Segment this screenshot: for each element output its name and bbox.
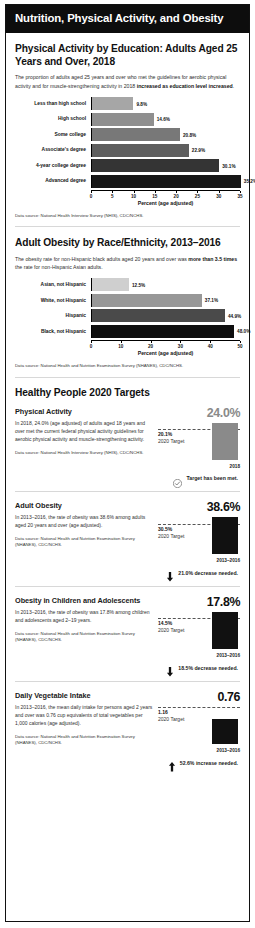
bar-fill	[92, 159, 219, 172]
data-source-note: Data source: National Health and Nutriti…	[15, 631, 154, 644]
target-goal-value: 20.1%	[158, 431, 172, 437]
bar-value-label: 48.0%	[234, 329, 250, 334]
bar-row: Black, not Hispanic48.0%	[15, 325, 240, 338]
target-name: Physical Activity	[15, 407, 154, 416]
bar-category-label: Associate's degree	[15, 147, 91, 152]
description-text: The obesity rate for non-Hispanic black …	[15, 256, 188, 262]
bar-value-label: 14.6%	[154, 117, 170, 122]
bar-fill	[92, 278, 129, 291]
bar-value-label: 20.8%	[180, 132, 196, 137]
section-title: Physical Activity by Education: Adults A…	[15, 42, 240, 68]
axis-tick-label: 30	[216, 194, 221, 199]
target-status-text: 21.0% decrease needed.	[178, 570, 238, 576]
axis-tick-label: 20	[148, 344, 153, 349]
bar-track: 37.1%	[91, 294, 240, 307]
bar-track: 44.9%	[91, 309, 240, 322]
bar-chart-race-ethnicity: Asian, not Hispanic12.5%White, not Hispa…	[15, 278, 240, 356]
target-description: In 2013–2016, the rate of obesity was 17…	[15, 608, 154, 624]
target-info: Adult ObesityIn 2013–2016, the rate of o…	[15, 501, 154, 549]
arrow-down-icon	[166, 568, 174, 578]
bar-category-label: Hispanic	[15, 313, 91, 318]
section-title: Healthy People 2020 Targets	[15, 387, 240, 398]
bar-track: 9.8%	[91, 97, 240, 110]
axis-tick-label: 30	[178, 344, 183, 349]
x-axis: 01020304050	[91, 340, 240, 351]
target-card: Obesity in Children and AdolescentsIn 20…	[15, 596, 240, 673]
bar-track: 48.0%	[91, 325, 240, 338]
target-goal-caption: 2020 Target	[158, 438, 184, 444]
data-source-note: Data source: National Health Interview S…	[15, 213, 240, 219]
target-value-bar	[212, 423, 238, 460]
target-period-label: 2013–2016	[217, 653, 240, 658]
section-description: The obesity rate for non-Hispanic black …	[15, 255, 240, 272]
data-source-note: Data source: National Health and Nutriti…	[15, 734, 154, 747]
section-healthy-people-2020: Healthy People 2020 Targets Physical Act…	[6, 378, 249, 775]
data-source-note: Data source: National Health and Nutriti…	[15, 363, 240, 369]
target-value-bar	[212, 612, 238, 649]
page-title: Nutrition, Physical Activity, and Obesit…	[15, 12, 240, 25]
target-card: Physical ActivityIn 2018, 24.0% (age adj…	[15, 407, 240, 483]
bar-fill	[92, 325, 234, 338]
target-name: Daily Vegetable Intake	[15, 691, 154, 700]
target-goal-caption: 2020 Target	[158, 627, 184, 633]
target-status: 18.5% decrease needed.	[15, 663, 240, 673]
target-value-bar	[212, 517, 238, 554]
bar-category-label: White, not Hispanic	[15, 298, 91, 303]
data-source-note: Data source: National Health Interview S…	[15, 450, 154, 456]
target-current-value: 24.0%	[207, 407, 240, 419]
bar-track: 22.9%	[91, 144, 240, 157]
section-description: The proportion of adults aged 25 years a…	[15, 73, 240, 90]
targets-list: Physical ActivityIn 2018, 24.0% (age adj…	[15, 407, 240, 768]
target-description: In 2013–2016, the mean daily intake for …	[15, 703, 154, 727]
axis-tick-label: 25	[195, 194, 200, 199]
target-status: 52.6% increase needed.	[15, 758, 240, 768]
bar-row: Asian, not Hispanic12.5%	[15, 278, 240, 291]
report-header: Nutrition, Physical Activity, and Obesit…	[6, 5, 249, 33]
target-description: In 2018, 24.0% (age adjusted) of adults …	[15, 419, 154, 443]
target-mini-chart: 0.761.162020 Target2013–2016	[158, 691, 240, 753]
bar-category-label: Asian, not Hispanic	[15, 282, 91, 287]
x-axis: 05101520253035	[91, 190, 240, 201]
target-goal-value: 30.5%	[158, 526, 172, 532]
target-goal-value: 14.5%	[158, 620, 172, 626]
bar-value-label: 30.1%	[219, 163, 235, 168]
bar-row: Advanced degree35.2%	[15, 175, 240, 188]
target-mini-chart: 38.6%30.5%2020 Target2013–2016	[158, 501, 240, 563]
target-goal-caption: 2020 Target	[158, 716, 184, 722]
target-card: Adult ObesityIn 2013–2016, the rate of o…	[15, 501, 240, 578]
axis-tick-label: 50	[237, 344, 242, 349]
description-tail: .	[233, 83, 234, 89]
axis-tick-label: 0	[90, 194, 93, 199]
axis-tick-label: 40	[208, 344, 213, 349]
axis-tick-label: 15	[152, 194, 157, 199]
axis-tick-label: 10	[131, 194, 136, 199]
target-goal-caption: 2020 Target	[158, 533, 184, 539]
bar-track: 35.2%	[91, 175, 240, 188]
bar-category-label: 4-year college degree	[15, 163, 91, 168]
target-info: Physical ActivityIn 2018, 24.0% (age adj…	[15, 407, 154, 456]
target-info: Daily Vegetable IntakeIn 2013–2016, the …	[15, 691, 154, 747]
bar-fill	[92, 294, 202, 307]
target-card: Daily Vegetable IntakeIn 2013–2016, the …	[15, 691, 240, 768]
bar-category-label: Black, not Hispanic	[15, 329, 91, 334]
target-row: Adult ObesityIn 2013–2016, the rate of o…	[15, 501, 240, 563]
bar-track: 30.1%	[91, 159, 240, 172]
bar-value-label: 37.1%	[202, 298, 218, 303]
target-name: Adult Obesity	[15, 501, 154, 510]
target-threshold-line	[158, 707, 240, 708]
bar-category-label: High school	[15, 116, 91, 121]
bar-fill	[92, 128, 180, 141]
target-row: Obesity in Children and AdolescentsIn 20…	[15, 596, 240, 658]
target-status-text: 52.6% increase needed.	[180, 760, 238, 766]
target-status-text: Target has been met.	[186, 475, 238, 481]
target-row: Physical ActivityIn 2018, 24.0% (age adj…	[15, 407, 240, 469]
section-physical-activity-education: Physical Activity by Education: Adults A…	[6, 33, 249, 226]
axis-tick-label: 0	[90, 344, 93, 349]
description-tail: the rate for non-Hispanic Asian adults.	[15, 264, 103, 270]
target-period-label: 2013–2016	[217, 748, 240, 753]
target-mini-chart: 24.0%20.1%2020 Target2018	[158, 407, 240, 469]
bar-chart-education: Less than high school9.8%High school14.6…	[15, 97, 240, 206]
check-circle-icon	[173, 474, 182, 483]
bar-value-label: 12.5%	[129, 282, 145, 287]
description-emphasis: increased as education level increased	[137, 83, 233, 89]
